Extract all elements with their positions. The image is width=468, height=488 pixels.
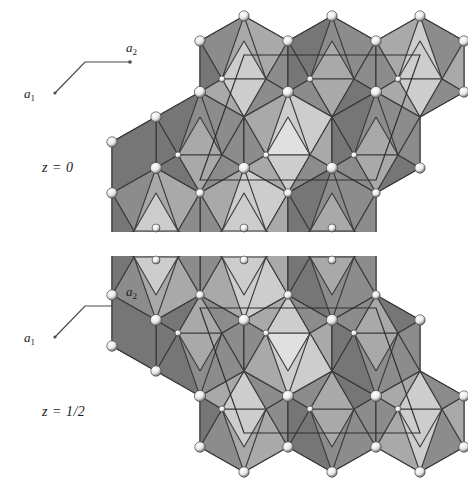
axis-label-a1-zhalf: a1: [24, 330, 35, 346]
octahedral-layer-diagram-z0: [0, 0, 468, 244]
panel-z-one-half: a2 a1 z = 1/2: [0, 244, 468, 488]
octahedra-group-z0: [112, 16, 464, 244]
panel-top-mask: [0, 244, 468, 256]
layer-label-z0: z = 0: [42, 160, 73, 176]
panel-bottom-mask: [0, 472, 468, 488]
panel-z-0: a2 a1 z = 0: [0, 0, 468, 244]
octahedral-layer-diagram-zhalf: [0, 244, 468, 488]
axis-vectors-z0: [53, 60, 131, 94]
octahedra-group-zhalf: [112, 244, 464, 472]
panel-top-mask: [0, 0, 468, 14]
figure-root: a2 a1 z = 0: [0, 0, 468, 488]
axis-label-a2-zhalf: a2: [126, 284, 137, 300]
axis-label-a1-z0: a1: [24, 86, 35, 102]
axis-label-a2-z0: a2: [126, 40, 137, 56]
panel-bottom-mask: [0, 232, 468, 244]
layer-label-zhalf: z = 1/2: [42, 404, 85, 420]
